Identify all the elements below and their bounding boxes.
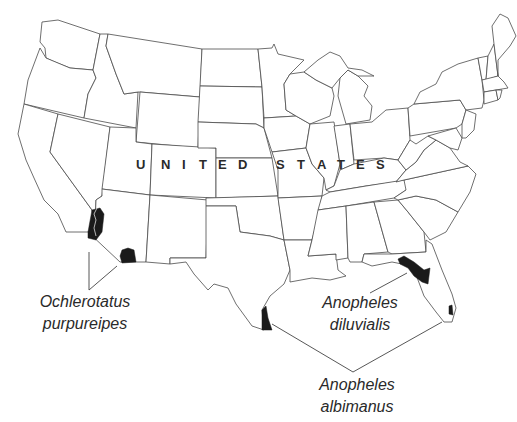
label-ochlerotatus-purpureipes: Ochlerotatus purpureipes <box>30 291 140 335</box>
label-anopheles-diluvialis: Anopheles diluvialis <box>305 292 415 336</box>
country-label-letter: T <box>199 157 207 172</box>
country-label-letter: D <box>238 157 247 172</box>
range-anopheles-albimanus-florida <box>449 305 453 315</box>
species-genus: Anopheles <box>305 292 415 314</box>
leader-ochlerotatus <box>89 252 117 290</box>
country-label-letter: A <box>317 157 326 172</box>
species-epithet: diluvialis <box>305 314 415 336</box>
country-label-letter: E <box>218 157 227 172</box>
state-iowa <box>264 116 310 152</box>
state-michigan <box>338 70 372 124</box>
state-wyoming <box>136 92 200 148</box>
species-epithet: albimanus <box>302 396 412 418</box>
range-ochlerotatus-arizona <box>120 248 136 263</box>
range-anopheles-albimanus-texas <box>262 306 272 330</box>
state-connecticut <box>484 90 498 104</box>
label-anopheles-albimanus: Anopheles albimanus <box>302 374 412 418</box>
country-label-letter: T <box>297 157 305 172</box>
state-south-dakota <box>198 86 264 128</box>
country-label-letter: E <box>356 157 365 172</box>
state-north-dakota <box>200 49 262 87</box>
species-epithet: purpureipes <box>30 313 140 335</box>
country-label-letter: T <box>337 157 345 172</box>
country-label-letter: S <box>376 157 385 172</box>
species-genus: Ochlerotatus <box>30 291 140 313</box>
country-label-letter: S <box>276 157 285 172</box>
country-label-letter: N <box>161 157 170 172</box>
state-new-mexico <box>146 195 208 264</box>
country-label-letter: U <box>136 157 145 172</box>
leader-anopheles-diluvialis <box>370 273 407 293</box>
country-label-letter: I <box>182 157 186 172</box>
species-genus: Anopheles <box>302 374 412 396</box>
us-map <box>0 0 517 422</box>
